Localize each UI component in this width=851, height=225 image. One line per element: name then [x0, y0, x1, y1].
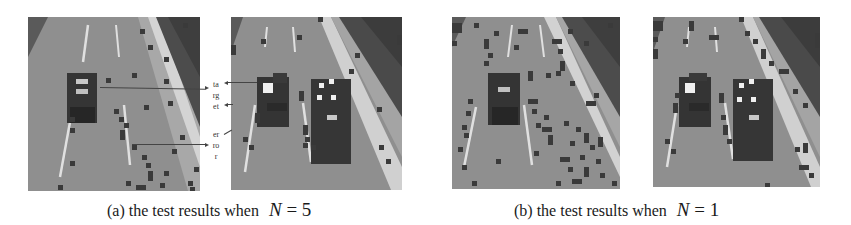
road-scene-two-vehicles-n1	[653, 17, 820, 187]
subfigure-b-caption: (b) the test results whenN = 1	[514, 199, 719, 221]
annotation-error: er ro r	[209, 129, 223, 162]
subfigure-a-image-1	[28, 17, 200, 191]
subfigure-a-caption: (a) the test results whenN = 5	[107, 199, 311, 221]
equation-b-val: 1	[710, 199, 720, 220]
annotation-target-line-1: ta	[209, 79, 223, 90]
leader-line-error-left	[132, 144, 205, 145]
annotation-error-line-2: ro	[209, 140, 223, 151]
equation-a-op: =	[286, 199, 297, 220]
subfigure-b-image-2	[653, 17, 820, 187]
subfigure-a-image-2	[231, 17, 402, 190]
leader-line-target-right-2	[227, 104, 233, 105]
annotation-target-line-3: et	[209, 101, 223, 112]
annotation-target-line-2: rg	[209, 90, 223, 101]
arrow-target-right-icon	[224, 81, 228, 85]
road-scene-two-vehicles	[231, 17, 402, 190]
annotation-error-line-3: r	[209, 151, 223, 162]
equation-a-var: N	[269, 199, 282, 220]
arrow-error-left-icon	[205, 143, 209, 147]
caption-a-text: (a) the test results when	[107, 202, 259, 219]
leader-line-target-right	[227, 82, 257, 83]
caption-b-equation: N = 1	[677, 199, 719, 220]
caption-b-text: (b) the test results when	[514, 202, 667, 219]
road-scene-single-car-n1	[452, 17, 620, 189]
subfigure-b-image-1	[452, 17, 620, 189]
arrow-target-left-icon	[205, 86, 209, 90]
annotation-error-line-1: er	[209, 129, 223, 140]
annotation-target: ta rg et	[209, 79, 223, 112]
equation-a-val: 5	[302, 199, 312, 220]
equation-b-var: N	[677, 199, 690, 220]
equation-b-op: =	[694, 199, 705, 220]
road-scene-single-car	[28, 17, 200, 191]
caption-a-equation: N = 5	[269, 199, 311, 220]
